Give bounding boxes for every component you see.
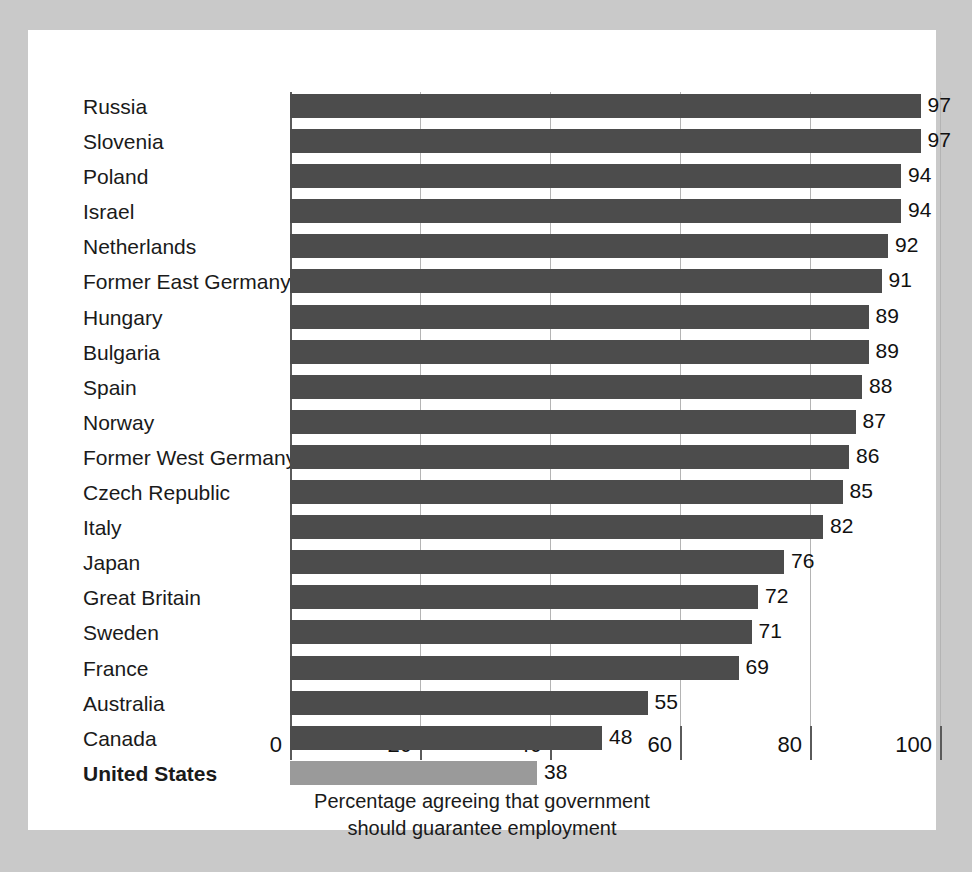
- figure-background: RussiaSloveniaPolandIsraelNetherlandsFor…: [0, 0, 972, 872]
- bar-value-label: 48: [602, 724, 632, 750]
- bar-row: 55: [290, 689, 940, 724]
- bar-row: 85: [290, 478, 940, 513]
- bar-row: 71: [290, 618, 940, 653]
- bar-row: 86: [290, 443, 940, 478]
- bar-value-label: 88: [862, 373, 892, 399]
- category-label: Italy: [83, 513, 283, 548]
- gridline-100: [940, 92, 941, 726]
- caption-line-2: should guarantee employment: [28, 815, 936, 842]
- bar[interactable]: [290, 94, 921, 118]
- bar[interactable]: [290, 129, 921, 153]
- category-label: Great Britain: [83, 583, 283, 618]
- bar-value-label: 55: [648, 689, 678, 715]
- category-label: Russia: [83, 92, 283, 127]
- bar-value-label: 86: [849, 443, 879, 469]
- bar-row: 91: [290, 267, 940, 302]
- chart-panel: RussiaSloveniaPolandIsraelNetherlandsFor…: [28, 30, 936, 830]
- bar[interactable]: [290, 656, 739, 680]
- bar-value-label: 69: [739, 654, 769, 680]
- bar[interactable]: [290, 410, 856, 434]
- category-axis-labels: RussiaSloveniaPolandIsraelNetherlandsFor…: [83, 92, 283, 726]
- bar-row: 82: [290, 513, 940, 548]
- bar-row: 89: [290, 338, 940, 373]
- x-tick-label: 0: [270, 732, 290, 758]
- category-label: Sweden: [83, 618, 283, 653]
- bar[interactable]: [290, 269, 882, 293]
- bar-value-label: 89: [869, 303, 899, 329]
- bar-value-label: 94: [901, 162, 931, 188]
- bar-rows: 9797949492918989888786858276727169554838: [290, 92, 940, 726]
- bar-value-label: 82: [823, 513, 853, 539]
- category-label: Hungary: [83, 303, 283, 338]
- category-label: Poland: [83, 162, 283, 197]
- category-label: Norway: [83, 408, 283, 443]
- bar-value-label: 97: [921, 127, 951, 153]
- bar[interactable]: [290, 234, 888, 258]
- bar-row: 87: [290, 408, 940, 443]
- bar[interactable]: [290, 550, 784, 574]
- bar[interactable]: [290, 199, 901, 223]
- bar-value-label: 94: [901, 197, 931, 223]
- bar[interactable]: [290, 164, 901, 188]
- bar-value-label: 87: [856, 408, 886, 434]
- bar[interactable]: [290, 691, 648, 715]
- bar-value-label: 89: [869, 338, 899, 364]
- category-label: France: [83, 654, 283, 689]
- category-label: Netherlands: [83, 232, 283, 267]
- bar-row: 38: [290, 759, 940, 794]
- bar[interactable]: [290, 726, 602, 750]
- bar[interactable]: [290, 515, 823, 539]
- category-label: Spain: [83, 373, 283, 408]
- category-label: Bulgaria: [83, 338, 283, 373]
- plot-area: 9797949492918989888786858276727169554838: [290, 92, 940, 726]
- category-label: Japan: [83, 548, 283, 583]
- category-label: Australia: [83, 689, 283, 724]
- bar-value-label: 85: [843, 478, 873, 504]
- bar[interactable]: [290, 585, 758, 609]
- bar-row: 94: [290, 162, 940, 197]
- bar[interactable]: [290, 620, 752, 644]
- bar-row: 48: [290, 724, 940, 759]
- bar-value-label: 38: [537, 759, 567, 785]
- bar-row: 92: [290, 232, 940, 267]
- category-label: Slovenia: [83, 127, 283, 162]
- bar-value-label: 92: [888, 232, 918, 258]
- bar-row: 69: [290, 654, 940, 689]
- bar-row: 72: [290, 583, 940, 618]
- bar-value-label: 91: [882, 267, 912, 293]
- bar-row: 97: [290, 127, 940, 162]
- bar[interactable]: [290, 375, 862, 399]
- bar-row: 89: [290, 303, 940, 338]
- bar-value-label: 97: [921, 92, 951, 118]
- bar-value-label: 76: [784, 548, 814, 574]
- bar-row: 97: [290, 92, 940, 127]
- category-label: Israel: [83, 197, 283, 232]
- x-tick-mark: [940, 726, 942, 760]
- bar[interactable]: [290, 340, 869, 364]
- category-label: Former West Germany: [83, 443, 283, 478]
- category-label: Canada: [83, 724, 283, 759]
- bar[interactable]: [290, 480, 843, 504]
- bar-row: 94: [290, 197, 940, 232]
- bar[interactable]: [290, 761, 537, 785]
- bar-row: 76: [290, 548, 940, 583]
- chart-caption: Percentage agreeing that government shou…: [28, 788, 936, 842]
- bar-row: 88: [290, 373, 940, 408]
- category-label: Former East Germany: [83, 267, 283, 302]
- bar[interactable]: [290, 445, 849, 469]
- bar[interactable]: [290, 305, 869, 329]
- bar-value-label: 72: [758, 583, 788, 609]
- bar-value-label: 71: [752, 618, 782, 644]
- category-label: Czech Republic: [83, 478, 283, 513]
